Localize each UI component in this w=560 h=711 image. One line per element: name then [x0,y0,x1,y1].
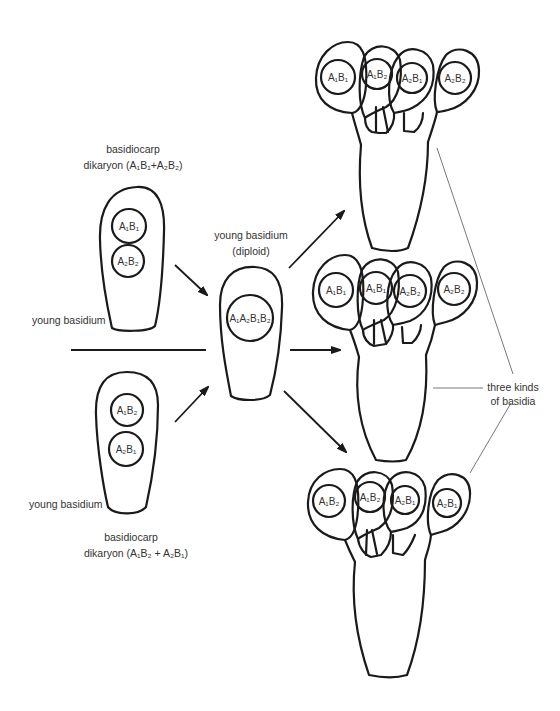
bottom-young-basidium-label: young basidium [29,498,103,510]
basidium-3-body [354,560,425,677]
sterigma-4 [428,112,437,142]
bottom-basidiocarp-label: basidiocarp [104,531,158,543]
nucleus-a2b2-label: A₂B₂ [117,256,138,267]
top-basidiocarp-label: basidiocarp [106,143,160,155]
arrow-top-to-diploid [175,265,207,295]
sterigma-3 [402,325,421,343]
basidium-diagram: basidiocarp dikaryon (A₁B₁+A₂B₂) A₁B₁ A₂… [0,0,560,711]
sterigma-3 [393,535,415,555]
spore-3-4-label: A₂B₁ [437,498,458,509]
top-young-basidium-label: young basidium [32,314,106,326]
spore-3-3-label: A₂B₁ [395,495,416,506]
sterigma-3 [404,113,423,132]
spore-2-1-label: A₁B₁ [326,285,347,296]
three-kinds-label-1: three kinds [487,381,538,393]
nucleus-a1b1-label: A₁B₁ [119,221,140,232]
nucleus-a2b1-label: A₂B₁ [116,444,137,455]
diploid-young-basidium-label: young basidium [214,229,288,241]
bottom-dikaryon-label: dikaryon (A₁B₂ + A₂B₁) [84,547,188,559]
diploid-group: young basidium (diploid) A₁A₂B₁B₂ [214,229,288,400]
mature-basidium-1: A₁B₁ A₁B₂ A₂B₁ A₂B₂ [316,42,479,251]
sterigma-1 [352,113,361,145]
callout-line-top [437,148,513,374]
mature-basidium-3: A₁B₂ A₁B₂ A₂B₁ A₂B₁ [308,469,470,677]
spore-1-1-label: A₁B₁ [328,72,349,83]
spore-1-4-label: A₂B₂ [444,73,465,84]
bottom-parent-group: A₁B₂ A₂B₁ young basidium basidiocarp dik… [29,372,188,559]
basidium-2-body [357,355,426,462]
top-parent-group: basidiocarp dikaryon (A₁B₁+A₂B₂) A₁B₁ A₂… [32,143,182,331]
three-kinds-callout: three kinds of basidia [433,148,539,473]
diploid-nucleus-label: A₁A₂B₁B₂ [229,313,270,324]
arrow-bottom-to-diploid [175,387,208,422]
spore-3-1-label: A₁B₂ [319,496,340,507]
arrow-diploid-to-basidium-1 [289,211,344,268]
basidium-1-body [360,142,428,251]
sterigma-4 [426,325,435,355]
spore-1-2-label: A₁B₂ [367,69,388,80]
callout-line-bottom [470,403,511,473]
sterigma-1 [345,540,355,562]
mature-basidium-2: A₁B₁ A₁B₁ A₂B₂ A₂B₂ [313,255,477,462]
sterigma-1 [350,330,359,357]
nucleus-a1b2-label: A₁B₂ [117,405,138,416]
diploid-label: (diploid) [232,245,269,257]
top-dikaryon-label: dikaryon (A₁B₁+A₂B₂) [84,159,183,171]
spore-3-2-label: A₁B₂ [360,492,381,503]
spore-1-3-label: A₂B₁ [402,73,423,84]
spore-2-3-label: A₂B₂ [399,286,420,297]
sterigma-4 [425,535,431,560]
diploid-basidium-cell [220,267,282,400]
three-kinds-label-2: of basidia [491,395,536,407]
spore-2-2-label: A₁B₁ [366,283,387,294]
spore-2-4-label: A₂B₂ [443,284,464,295]
arrow-diploid-to-basidium-3 [284,391,346,452]
